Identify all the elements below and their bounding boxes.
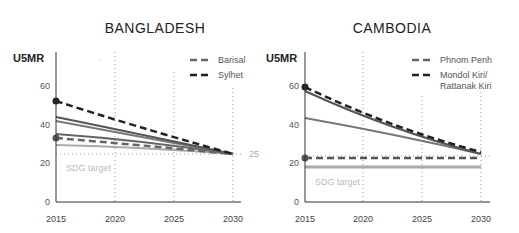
svg-text:2025: 2025: [164, 214, 184, 224]
svg-text:20: 20: [40, 158, 50, 168]
y-axis-label: U5MR: [13, 52, 44, 64]
svg-text:0: 0: [45, 197, 50, 207]
chart-bangladesh: BANGLADESH U5MR · 0 20 40 60: [13, 20, 259, 224]
y-ticks: 0 20 40 60: [40, 81, 50, 207]
sdg-target-value: 25: [249, 149, 259, 159]
legend: Barisal Sylhet: [190, 55, 246, 80]
svg-text:2025: 2025: [412, 214, 432, 224]
svg-text:2015: 2015: [46, 214, 66, 224]
legend: Phnom Penh Mondol Kiri/ Rattanak Kiri: [412, 55, 492, 91]
legend-rattanak-kiri: Rattanak Kiri: [440, 81, 492, 91]
series-region-b: [305, 118, 481, 154]
svg-text:2015: 2015: [295, 214, 315, 224]
x-ticks: 2015 2020 2025 2030: [295, 214, 491, 224]
svg-text:2030: 2030: [223, 214, 243, 224]
chart-canvas: BANGLADESH U5MR · 0 20 40 60: [0, 0, 519, 233]
legend-mondol-kiri: Mondol Kiri/: [440, 70, 488, 80]
series-lines: [56, 101, 233, 154]
sdg-target-label: SDG target: [66, 163, 112, 173]
svg-text:40: 40: [40, 120, 50, 130]
svg-text:20: 20: [289, 158, 299, 168]
stray-mark: ·: [99, 55, 102, 64]
legend-barisal: Barisal: [218, 55, 246, 65]
y-ticks: 0 20 40 60: [289, 81, 299, 207]
series-mondol-kiri: [305, 87, 481, 152]
legend-sylhet: Sylhet: [218, 70, 244, 80]
sdg-target-label: SDG target: [315, 177, 361, 187]
svg-text:2030: 2030: [471, 214, 491, 224]
chart-cambodia: CAMBODIA U5MR 0 20 40 60 2015 2020: [266, 20, 492, 224]
svg-text:40: 40: [289, 120, 299, 130]
svg-text:2020: 2020: [353, 214, 373, 224]
svg-text:60: 60: [289, 81, 299, 91]
chart-title: CAMBODIA: [353, 20, 432, 36]
legend-phnom-penh: Phnom Penh: [440, 55, 492, 65]
svg-text:60: 60: [40, 81, 50, 91]
svg-text:2020: 2020: [105, 214, 125, 224]
series-lines: [305, 87, 481, 167]
x-ticks: 2015 2020 2025 2030: [46, 214, 243, 224]
y-axis-label: U5MR: [266, 52, 297, 64]
chart-title: BANGLADESH: [105, 20, 206, 36]
svg-text:0: 0: [294, 197, 299, 207]
